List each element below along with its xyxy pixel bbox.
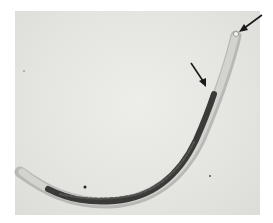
worm-gut-highlight — [60, 142, 194, 199]
head-tip — [234, 32, 239, 37]
arrow-icon — [191, 63, 206, 87]
nematode-figure — [0, 0, 273, 223]
arrow-icon — [239, 15, 262, 32]
speck — [23, 70, 25, 72]
speck — [84, 186, 87, 189]
worm-gut — [48, 94, 214, 202]
speck — [209, 175, 211, 177]
